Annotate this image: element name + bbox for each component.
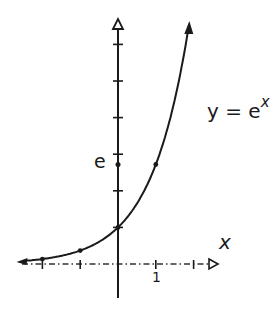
plot-canvas [0, 0, 275, 311]
marked-points [40, 162, 158, 261]
x-axis-label: x [219, 232, 231, 252]
curve-arrow-up-icon [184, 21, 193, 34]
curve-point [116, 225, 121, 230]
curve-point [40, 257, 45, 262]
equation-exponent: x [261, 93, 270, 111]
curve-point [78, 248, 83, 253]
x-tick-label-1: 1 [152, 270, 161, 284]
equation-base: y = e [207, 99, 261, 123]
y-axis-marker [116, 162, 121, 167]
x-axis-arrow-icon [209, 259, 218, 269]
y-axis-arrow-icon [113, 19, 123, 29]
equation-label: y = ex [207, 98, 270, 121]
exp-curve [24, 29, 189, 261]
curve-point [153, 162, 158, 167]
y-tick-label-e: e [94, 152, 106, 171]
